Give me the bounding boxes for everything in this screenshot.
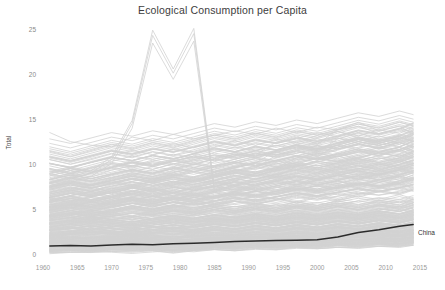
y-axis-ticks: 0510152025 xyxy=(29,26,37,258)
x-tick-label: 2000 xyxy=(310,264,325,271)
x-tick-label: 2010 xyxy=(378,264,393,271)
background-series-lines xyxy=(50,28,413,253)
y-tick-label: 0 xyxy=(32,251,36,258)
x-tick-label: 1960 xyxy=(36,264,51,271)
x-tick-label: 1995 xyxy=(276,264,291,271)
china-series-annotation: China xyxy=(418,229,435,236)
y-tick-label: 20 xyxy=(29,71,37,78)
y-tick-label: 10 xyxy=(29,161,37,168)
x-axis-ticks: 1960196519701975198019851990199520002005… xyxy=(36,264,428,271)
x-tick-label: 2015 xyxy=(413,264,428,271)
y-tick-label: 25 xyxy=(29,26,37,33)
x-tick-label: 2005 xyxy=(344,264,359,271)
x-tick-label: 1980 xyxy=(173,264,188,271)
x-tick-label: 1970 xyxy=(104,264,119,271)
x-tick-label: 1985 xyxy=(207,264,222,271)
y-tick-label: 15 xyxy=(29,116,37,123)
chart-container: Ecological Consumption per Capita Total … xyxy=(0,0,445,290)
y-tick-label: 5 xyxy=(32,206,36,213)
chart-plot-area: 0510152025 19601965197019751980198519901… xyxy=(0,0,445,290)
x-tick-label: 1975 xyxy=(139,264,154,271)
x-tick-label: 1965 xyxy=(70,264,85,271)
x-tick-label: 1990 xyxy=(241,264,256,271)
